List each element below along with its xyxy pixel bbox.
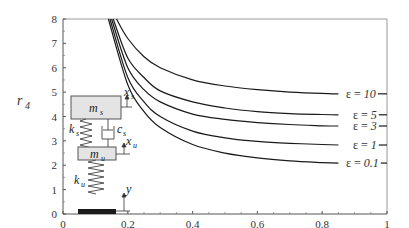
damper	[102, 119, 114, 147]
svg-text:s: s	[100, 108, 103, 117]
y-tick-label: 6	[52, 62, 58, 74]
y-tick-label: 2	[52, 159, 58, 171]
x-tick-label: 0.2	[121, 218, 135, 228]
curve-labels: ε = 10ε = 5ε = 3ε = 1ε = 0.1	[346, 87, 387, 170]
x-tick-label: 0.8	[315, 218, 329, 228]
x-tick-label: 0.6	[251, 218, 265, 228]
curve-eps-0_1	[108, 19, 338, 163]
y-tick-label: 3	[52, 135, 58, 147]
svg-text:s: s	[131, 92, 134, 101]
svg-text:r: r	[17, 93, 23, 108]
curve-eps-1	[110, 19, 338, 145]
svg-text:u: u	[133, 141, 137, 150]
quarter-car-diagram: m s k s c s m u k u x s	[69, 85, 137, 214]
y-tick-label: 0	[52, 208, 58, 220]
svg-text:x: x	[123, 85, 130, 99]
svg-text:k: k	[74, 173, 80, 187]
y-tick-label: 8	[52, 13, 58, 25]
y-tick-label: 4	[52, 111, 58, 123]
svg-text:u: u	[81, 180, 85, 189]
svg-text:k: k	[69, 122, 75, 136]
curve-eps-3	[112, 19, 339, 126]
y-tick-label: 7	[52, 37, 58, 49]
curve-label: ε = 3	[353, 119, 377, 133]
chart: 012345678 00.20.40.60.81 α r 4 ε = 10ε =…	[0, 0, 409, 228]
tire-spring	[88, 160, 104, 194]
y-tick-label: 1	[52, 184, 58, 196]
x-tick-label: 0	[60, 218, 66, 228]
svg-text:s: s	[76, 129, 79, 138]
curve-group	[108, 19, 338, 163]
curve-label: ε = 0.1	[346, 156, 379, 170]
x-tick-label: 0.4	[186, 218, 200, 228]
svg-text:y: y	[125, 182, 132, 196]
suspension-spring	[80, 119, 92, 150]
curve-label: ε = 10	[346, 87, 376, 101]
y-axis-title: r 4	[17, 93, 30, 111]
y-tick-label: 5	[52, 86, 58, 98]
svg-text:x: x	[125, 134, 132, 148]
x-tick-label: 1	[384, 218, 390, 228]
svg-text:4: 4	[25, 100, 30, 111]
svg-text:u: u	[101, 154, 105, 163]
curve-eps-5	[113, 19, 338, 115]
road-ground	[78, 209, 116, 214]
svg-text:m: m	[90, 147, 99, 161]
svg-text:m: m	[89, 101, 98, 115]
curve-label: ε = 1	[353, 138, 377, 152]
y-axis-ticks: 012345678	[52, 13, 67, 220]
